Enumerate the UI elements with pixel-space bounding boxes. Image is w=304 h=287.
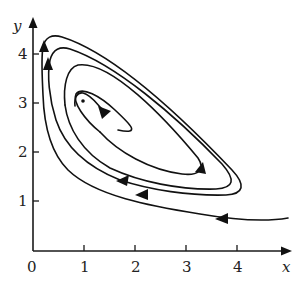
- direction-arrow-icon: [215, 213, 228, 224]
- y-tick-label-3: 3: [18, 94, 28, 112]
- x-tick-label-3: 3: [182, 258, 192, 276]
- y-tick-label-1: 1: [18, 192, 28, 210]
- y-axis-label: y: [12, 17, 22, 35]
- trajectory: [39, 36, 288, 224]
- equilibrium-point: [81, 99, 85, 103]
- axis-labels: 0 1 2 3 4 x 1 2 3 4 y: [12, 17, 291, 276]
- direction-arrow-icon: [39, 40, 49, 52]
- direction-arrow-icon: [43, 57, 53, 70]
- direction-arrow-icon: [135, 189, 148, 200]
- x-tick-label-1: 1: [80, 258, 90, 276]
- x-axis-arrow-icon: [281, 247, 292, 256]
- y-tick-label-2: 2: [18, 143, 28, 161]
- phase-portrait: 0 1 2 3 4 x 1 2 3 4 y: [0, 0, 304, 287]
- x-origin-label: 0: [27, 258, 37, 276]
- direction-arrow-icon: [98, 106, 111, 119]
- x-axis-label: x: [282, 258, 291, 276]
- direction-arrow-icon: [116, 175, 129, 186]
- trajectory-loop-1: [42, 36, 288, 220]
- x-tick-label-2: 2: [131, 258, 141, 276]
- y-tick-label-4: 4: [18, 45, 28, 63]
- y-axis-arrow-icon: [29, 17, 38, 28]
- x-tick-label-4: 4: [233, 258, 243, 276]
